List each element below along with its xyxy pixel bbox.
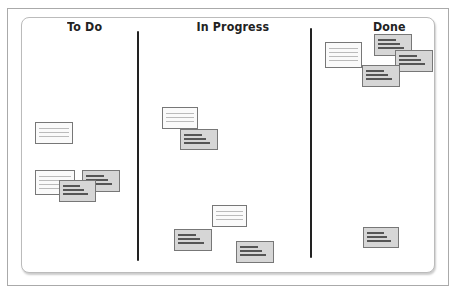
column-divider <box>137 31 139 261</box>
card-line <box>378 43 400 45</box>
card-line <box>166 117 194 118</box>
card-line <box>329 48 358 49</box>
card-line <box>378 39 396 41</box>
card-line <box>184 142 210 144</box>
sticky-card[interactable] <box>162 107 198 129</box>
column-divider <box>310 28 312 258</box>
card-line <box>329 60 358 61</box>
card-line <box>366 74 388 76</box>
card-line <box>178 238 200 240</box>
card-line <box>366 78 392 80</box>
card-line <box>367 232 384 234</box>
card-line <box>240 254 266 256</box>
card-line <box>329 56 358 57</box>
card-line <box>216 219 243 220</box>
sticky-card[interactable] <box>236 241 274 263</box>
card-line <box>399 59 421 61</box>
sticky-card[interactable] <box>180 129 218 150</box>
card-line <box>399 63 425 65</box>
sticky-card[interactable] <box>59 180 96 202</box>
card-line <box>63 193 88 195</box>
sticky-card[interactable] <box>35 122 73 144</box>
card-line <box>367 240 391 242</box>
card-line <box>399 55 417 57</box>
card-line <box>329 52 358 53</box>
card-line <box>184 138 206 140</box>
sticky-card[interactable] <box>325 42 362 68</box>
sticky-card[interactable] <box>362 65 400 87</box>
card-line <box>367 236 387 238</box>
card-line <box>216 211 243 212</box>
sticky-card[interactable] <box>395 50 433 72</box>
card-line <box>184 134 202 136</box>
sticky-card[interactable] <box>212 205 247 227</box>
card-line <box>39 128 69 129</box>
card-line <box>378 47 404 49</box>
card-line <box>63 185 80 187</box>
card-line <box>39 136 69 137</box>
card-line <box>366 70 384 72</box>
card-line <box>216 215 243 216</box>
sticky-card[interactable] <box>363 227 399 248</box>
column-title-in-progress: In Progress <box>196 19 269 34</box>
column-title-done: Done <box>373 19 406 34</box>
column-title-todo: To Do <box>67 19 102 34</box>
card-line <box>240 246 258 248</box>
card-line <box>39 176 71 177</box>
card-line <box>63 189 84 191</box>
card-line <box>178 242 204 244</box>
sticky-card[interactable] <box>174 229 212 251</box>
card-line <box>86 175 104 177</box>
card-line <box>39 132 69 133</box>
card-line <box>240 250 262 252</box>
card-line <box>166 113 194 114</box>
card-line <box>178 234 196 236</box>
card-line <box>166 121 194 122</box>
